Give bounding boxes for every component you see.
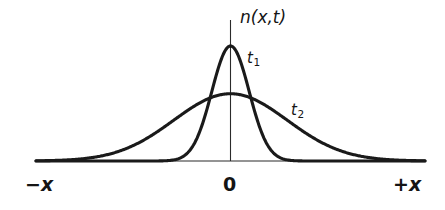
curve-label-t2: t2 [291,103,304,120]
x-axis-tick-right: +x [393,175,421,194]
curve-label-t2-subscript: 2 [297,108,304,120]
x-axis-tick-left: −x [25,175,53,194]
curve-label-t1-subscript: 1 [253,56,260,68]
y-axis-label: n(x,t) [240,9,286,26]
curve-label-t1: t1 [247,51,260,68]
diffusion-diagram: n(x,t) t1 t2 −x 0 +x [0,0,445,210]
curve-label-t1-base: t [247,49,253,67]
x-axis-tick-origin: 0 [223,175,236,194]
curve-label-t2-base: t [291,101,297,119]
